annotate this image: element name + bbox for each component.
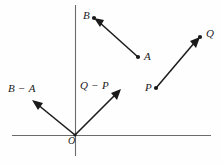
vector-q-minus-p-shaft: [75, 94, 116, 135]
point-a-dot: [136, 55, 140, 59]
point-label-b: B: [83, 10, 90, 21]
vector-p-to-q-shaft: [156, 42, 195, 88]
point-q-dot: [198, 35, 202, 39]
point-label-q: Q: [206, 28, 214, 39]
point-label-a: A: [144, 51, 151, 62]
point-label-p: P: [145, 82, 152, 93]
point-p-dot: [154, 86, 158, 90]
origin-label: O: [68, 136, 75, 146]
vector-label-b-minus-a: B − A: [8, 83, 36, 94]
vector-b-minus-a-shaft: [37, 104, 75, 135]
point-b-dot: [92, 16, 96, 20]
vector-label-q-minus-p: Q − P: [80, 80, 109, 91]
vector-diagram-figure: B A Q P B − A Q − P O: [0, 0, 223, 164]
vector-a-to-b-shaft: [99, 22, 138, 57]
